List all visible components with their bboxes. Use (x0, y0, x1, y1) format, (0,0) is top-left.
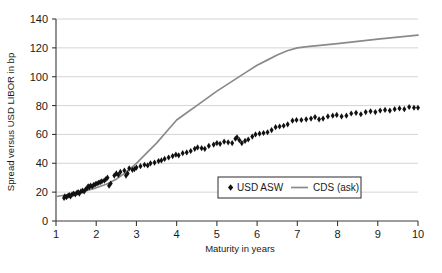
x-axis-title: Maturity in years (205, 243, 275, 254)
x-tick-label: 2 (93, 228, 99, 240)
x-tick-label: 7 (294, 228, 300, 240)
y-tick-label: 100 (30, 71, 48, 83)
chart-figure: 020406080100120140 12345678910 Maturity … (0, 0, 442, 273)
chart-svg: 020406080100120140 12345678910 Maturity … (0, 0, 442, 273)
y-tick-label: 60 (36, 128, 48, 140)
legend-label-cds-ask: CDS (ask) (313, 182, 359, 193)
x-tick-label: 6 (254, 228, 260, 240)
x-tick-label: 5 (214, 228, 220, 240)
y-tick-label: 140 (30, 13, 48, 25)
y-tick-label: 20 (36, 186, 48, 198)
chart-legend: USD ASW CDS (ask) (218, 177, 361, 198)
x-tick-label: 10 (412, 228, 424, 240)
y-tick-label: 120 (30, 42, 48, 54)
y-tick-label: 0 (42, 215, 48, 227)
x-tick-label: 3 (133, 228, 139, 240)
x-tick-label: 1 (53, 228, 59, 240)
y-tick-label: 40 (36, 157, 48, 169)
y-tick-label: 80 (36, 100, 48, 112)
y-axis-title: Spread versus USD LIBOR in bp (5, 53, 16, 191)
x-tick-label: 4 (174, 228, 180, 240)
x-tick-label: 9 (375, 228, 381, 240)
x-tick-label: 8 (334, 228, 340, 240)
legend-label-usd-asw: USD ASW (237, 182, 284, 193)
